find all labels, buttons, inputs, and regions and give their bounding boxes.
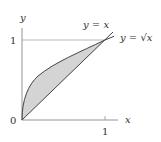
area-between-curves-diagram: y x 0 1 1 y = x y = √x xyxy=(0,0,161,142)
sqrt-label: y = √x xyxy=(119,32,153,43)
y-tick-label: 1 xyxy=(10,35,16,46)
y-axis-label: y xyxy=(19,12,26,23)
x-axis-label: x xyxy=(125,114,131,125)
curve-line xyxy=(22,32,113,120)
curve-sqrt xyxy=(22,36,114,120)
origin-label: 0 xyxy=(10,115,16,126)
line-label: y = x xyxy=(82,19,109,30)
x-tick-label: 1 xyxy=(102,126,108,137)
